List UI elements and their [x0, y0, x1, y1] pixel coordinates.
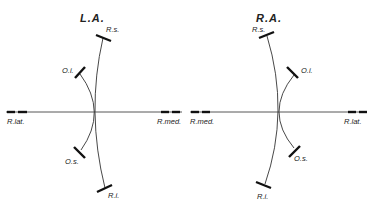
eye-muscle-diagram: L.A. R.s. R.i. O.i. O.s. R.lat. R.med. R…: [0, 0, 375, 205]
superior-rectus-marker: [96, 35, 111, 41]
superior-oblique-label: O.s.: [65, 157, 79, 166]
inferior-rectus-label: R.i.: [257, 192, 268, 201]
right-eye-title: R.A.: [256, 12, 282, 24]
lateral-rectus-label: R.lat.: [344, 117, 362, 126]
superior-oblique-label: O.s.: [294, 154, 308, 163]
lateral-rectus-label: R.lat.: [7, 117, 25, 126]
inferior-rectus-marker: [256, 182, 271, 188]
inferior-oblique-marker: [75, 67, 85, 78]
superior-rectus-label: R.s.: [106, 25, 119, 34]
oblique-curve: [279, 75, 294, 148]
vertical-rectus-curve: [265, 36, 278, 184]
medial-rectus-label: R.med.: [190, 117, 214, 126]
left-eye-title: L.A.: [80, 12, 105, 24]
inferior-oblique-label: O.i.: [301, 66, 313, 75]
superior-rectus-label: R.s.: [252, 25, 265, 34]
vertical-rectus-curve: [95, 38, 105, 188]
inferior-rectus-label: R.i.: [108, 191, 119, 200]
inferior-oblique-label: O.i.: [62, 66, 74, 75]
right-eye-diagram: R.A. R.s. R.i. O.i. O.s. R.med. R.lat.: [190, 12, 367, 201]
medial-rectus-label: R.med.: [157, 117, 181, 126]
left-eye-diagram: L.A. R.s. R.i. O.i. O.s. R.lat. R.med.: [6, 12, 182, 200]
